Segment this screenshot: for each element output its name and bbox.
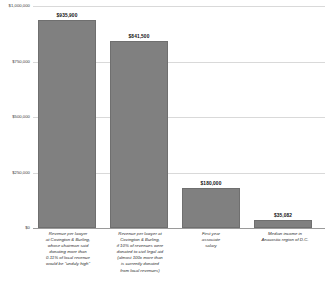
caption-line: Revenue per lawyer bbox=[49, 231, 88, 236]
bar-slot-1: $935,900 bbox=[38, 6, 96, 228]
caption-line: 0.11% of local revenue bbox=[46, 255, 90, 260]
bar-value-label: $180,000 bbox=[201, 182, 222, 187]
caption-line: donating more than bbox=[49, 249, 86, 254]
category-label-revenue-per-lawyer-ten-percent: Revenue per lawyer at Covington & Burlin… bbox=[103, 231, 177, 274]
bar-median-income-anacostia[interactable] bbox=[254, 220, 312, 228]
caption-line: at Covington & Burling, bbox=[46, 237, 90, 242]
bar-slot-3: $180,000 bbox=[182, 6, 240, 228]
y-axis-tick-label: $1,000,000 bbox=[9, 4, 30, 8]
bar-revenue-per-lawyer-current[interactable] bbox=[38, 20, 96, 228]
bar-slot-4: $35,082 bbox=[254, 6, 312, 228]
y-axis-tick-label: $0 bbox=[25, 226, 30, 230]
caption-line: (almost 100x more than bbox=[117, 255, 163, 260]
caption-line: whose chairman said bbox=[48, 243, 89, 248]
bar-value-label: $35,082 bbox=[274, 214, 292, 219]
caption-line: Revenue per lawyer at bbox=[118, 231, 161, 236]
plot-area: $1,000,000 $750,000 $500,000 $250,000 $0… bbox=[33, 6, 325, 228]
caption-line: is currently donated bbox=[121, 261, 159, 266]
bar-value-label: $935,900 bbox=[57, 14, 78, 19]
caption-line: First year bbox=[202, 231, 220, 236]
x-axis-category-labels: Revenue per lawyer at Covington & Burlin… bbox=[33, 231, 325, 283]
bar-series: $935,900 $841,500 $180,000 $35,082 bbox=[33, 6, 325, 228]
caption-line: if 10% of revenues were bbox=[117, 243, 164, 248]
y-axis-tick-label: $750,000 bbox=[12, 59, 30, 63]
caption-line: Anacostia region of D.C. bbox=[261, 237, 308, 242]
y-axis-tick-label: $250,000 bbox=[12, 170, 30, 174]
caption-line: from local revenues) bbox=[120, 268, 159, 273]
category-label-revenue-per-lawyer-current: Revenue per lawyer at Covington & Burlin… bbox=[31, 231, 105, 268]
caption-line: Covington & Burling, bbox=[120, 237, 160, 242]
caption-line: donated to civil legal aid bbox=[117, 249, 163, 254]
bar-first-year-associate-salary[interactable] bbox=[182, 188, 240, 228]
caption-line: Median income in bbox=[268, 231, 302, 236]
caption-line: salary bbox=[205, 243, 217, 248]
bar-chart: $1,000,000 $750,000 $500,000 $250,000 $0… bbox=[0, 0, 329, 284]
y-axis-tick-label: $500,000 bbox=[12, 115, 30, 119]
category-label-first-year-associate-salary: First year associate salary bbox=[177, 231, 245, 249]
caption-line: associate bbox=[202, 237, 220, 242]
bar-revenue-per-lawyer-ten-percent[interactable] bbox=[110, 41, 168, 228]
bar-slot-2: $841,500 bbox=[110, 6, 168, 228]
bar-value-label: $841,500 bbox=[129, 35, 150, 40]
caption-line: would be "unduly high" bbox=[46, 261, 90, 266]
x-axis-baseline: $0 bbox=[33, 228, 325, 229]
category-label-median-income-anacostia: Median income in Anacostia region of D.C… bbox=[247, 231, 323, 243]
